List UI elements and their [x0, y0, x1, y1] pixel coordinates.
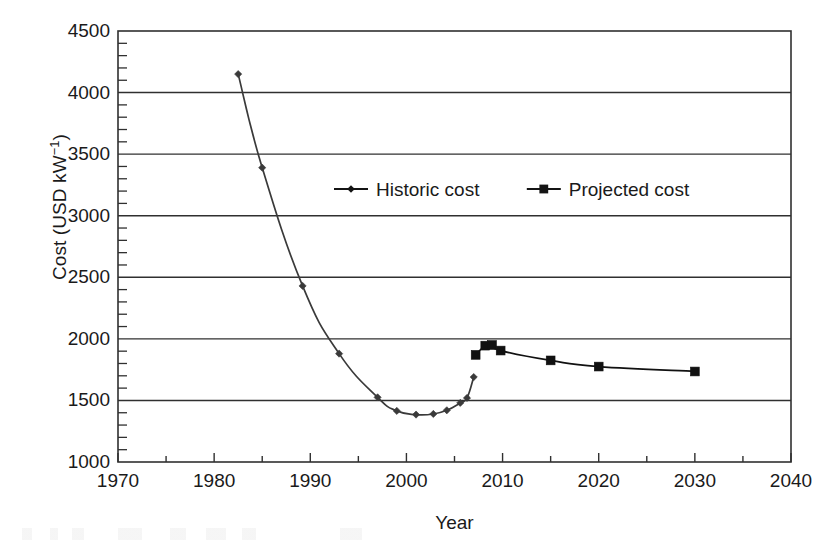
data-point-marker	[443, 407, 450, 414]
series-line	[476, 344, 695, 371]
legend-entry-2: Projected cost	[527, 179, 690, 200]
series-line	[238, 74, 474, 415]
data-point-marker	[488, 341, 497, 350]
data-point-marker	[470, 373, 477, 380]
legend-marker-square	[539, 185, 548, 194]
plot-frame	[118, 31, 791, 462]
series-1	[235, 71, 478, 419]
data-point-marker	[259, 164, 266, 171]
data-point-marker	[235, 71, 242, 78]
legend-label: Historic cost	[376, 179, 480, 200]
data-point-marker	[594, 362, 603, 371]
data-point-marker	[393, 407, 400, 414]
page-caption-artifact	[10, 528, 430, 540]
legend-label: Projected cost	[569, 179, 690, 200]
plot-area	[0, 0, 821, 547]
chart-figure: Cost (USD kW−1) 100015002000250030003500…	[0, 0, 821, 547]
data-point-marker	[471, 350, 480, 359]
legend-marker-diamond	[347, 185, 355, 193]
data-point-marker	[299, 282, 306, 289]
data-point-marker	[412, 411, 419, 418]
data-point-marker	[690, 367, 699, 376]
legend-entry-1: Historic cost	[334, 179, 480, 200]
data-point-marker	[496, 346, 505, 355]
series-2	[471, 341, 699, 376]
chart-legend: Historic costProjected cost	[330, 172, 750, 206]
data-point-marker	[430, 410, 437, 417]
data-point-marker	[546, 356, 555, 365]
